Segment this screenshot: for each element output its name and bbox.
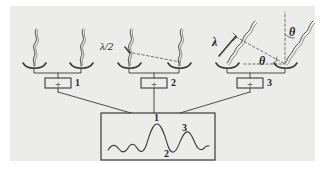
peak-label-main: 1: [154, 113, 159, 123]
wave-ray-g3-left: [227, 21, 257, 65]
peak-label-side: 3: [182, 123, 187, 133]
figure-root: 1 2 3 + + + λ/2 λ θ θ 1 2 3: [0, 0, 325, 179]
figure-canvas: [0, 0, 325, 179]
summer-plus-1: +: [55, 79, 61, 90]
summer-label-3: 3: [267, 78, 272, 88]
peak-label-trough: 2: [164, 149, 169, 159]
summer-plus-3: +: [247, 79, 253, 90]
feed-bus-g2: [129, 68, 179, 73]
angle-label-theta-baseline: θ: [259, 55, 265, 67]
combiner-line-g3: [180, 92, 250, 113]
combiner-line-g1: [58, 92, 131, 113]
wavefront-dashed-g2: [128, 52, 180, 62]
path-label-lambda-half: λ/2: [100, 41, 113, 52]
wave-ray-g1-right: [80, 29, 85, 66]
dish-g3-right: [274, 63, 297, 68]
dish-g3-left: [216, 63, 239, 68]
feed-bus-g1: [34, 68, 81, 73]
interference-waveform: [108, 124, 209, 152]
summer-label-1: 1: [75, 78, 80, 88]
path-label-lambda: λ: [212, 36, 217, 48]
wave-ray-g1-left: [33, 29, 38, 66]
angle-label-theta-boresight: θ: [289, 26, 295, 38]
wave-ray-g2-left: [128, 29, 133, 66]
feed-bus-g3: [227, 68, 285, 73]
summer-plus-2: +: [151, 79, 157, 90]
summer-label-2: 2: [171, 78, 176, 88]
wave-ray-g2-right: [178, 29, 183, 66]
